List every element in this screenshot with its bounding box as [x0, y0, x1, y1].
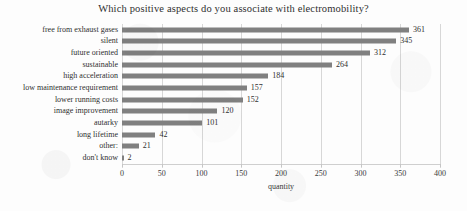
bar-row: image improvement120 — [122, 106, 440, 118]
bar — [122, 132, 155, 137]
category-label: sustainable — [82, 61, 118, 69]
x-tick-label: 350 — [394, 169, 406, 178]
bar-value-label: 152 — [247, 96, 259, 104]
x-tick-label: 200 — [275, 169, 287, 178]
x-tick-mark — [281, 164, 282, 167]
bar-value-label: 361 — [413, 26, 425, 34]
category-label: free from exhaust gases — [42, 26, 118, 34]
bar-value-label: 264 — [336, 61, 348, 69]
category-label: silent — [101, 37, 118, 45]
bar-chart-figure: Which positive aspects do you associate … — [0, 0, 467, 211]
bar — [122, 109, 217, 114]
gridline — [440, 24, 441, 168]
category-label: future oriented — [71, 49, 118, 57]
x-axis-label: quantity — [122, 182, 440, 191]
bar — [122, 62, 332, 67]
bar-value-label: 184 — [272, 72, 284, 80]
bar-value-label: 101 — [206, 119, 218, 127]
x-tick-label: 400 — [434, 169, 446, 178]
bar-value-label: 42 — [159, 131, 167, 139]
x-tick-mark — [122, 164, 123, 167]
bar-row: lower running costs152 — [122, 94, 440, 106]
x-tick-label: 250 — [315, 169, 327, 178]
bar — [122, 156, 124, 161]
plot-area: free from exhaust gases361silent345futur… — [122, 24, 440, 164]
category-label: lower running costs — [55, 96, 118, 104]
x-tick-label: 150 — [235, 169, 247, 178]
bar-row: sustainable264 — [122, 59, 440, 71]
bar-row: future oriented312 — [122, 47, 440, 59]
category-label: autarky — [94, 119, 118, 127]
x-tick-mark — [400, 164, 401, 167]
category-label: other: — [99, 142, 118, 150]
x-tick-label: 300 — [355, 169, 367, 178]
x-tick-mark — [162, 164, 163, 167]
category-label: long lifetime — [77, 131, 118, 139]
bar — [122, 144, 139, 149]
x-tick-mark — [241, 164, 242, 167]
bar-value-label: 157 — [251, 84, 263, 92]
bar — [122, 74, 268, 79]
bar-value-label: 21 — [143, 142, 151, 150]
x-tick-mark — [202, 164, 203, 167]
bar — [122, 27, 409, 32]
x-tick-mark — [321, 164, 322, 167]
x-tick-label: 50 — [158, 169, 166, 178]
bar-row: autarky101 — [122, 117, 440, 129]
x-tick-label: 100 — [196, 169, 208, 178]
bar-row: long lifetime42 — [122, 129, 440, 141]
category-label: don't know — [83, 154, 118, 162]
bar-value-label: 345 — [400, 37, 412, 45]
bar-row: silent345 — [122, 36, 440, 48]
bar — [122, 121, 202, 126]
category-label: image improvement — [54, 107, 118, 115]
category-label: low maintenance requirement — [23, 84, 118, 92]
bar-value-label: 120 — [221, 107, 233, 115]
bar-row: low maintenance requirement157 — [122, 82, 440, 94]
x-tick-label: 0 — [120, 169, 124, 178]
bar — [122, 39, 396, 44]
bar-value-label: 2 — [128, 154, 132, 162]
bar — [122, 86, 247, 91]
bar — [122, 51, 370, 56]
bar-row: other:21 — [122, 141, 440, 153]
bar-row: don't know2 — [122, 152, 440, 164]
category-label: high acceleration — [63, 72, 118, 80]
x-tick-mark — [440, 164, 441, 167]
bar-row: free from exhaust gases361 — [122, 24, 440, 36]
x-tick-mark — [361, 164, 362, 167]
bar-value-label: 312 — [374, 49, 386, 57]
bar-row: high acceleration184 — [122, 71, 440, 83]
chart-title: Which positive aspects do you associate … — [0, 3, 467, 14]
bar — [122, 97, 243, 102]
